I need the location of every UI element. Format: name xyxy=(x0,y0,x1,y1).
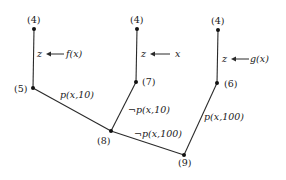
node-label-4b: (4) xyxy=(130,14,143,25)
node-label-8: (8) xyxy=(97,135,110,146)
edge-4-5 xyxy=(33,29,34,88)
subst-var-3: z xyxy=(221,53,228,64)
node-label-6: (6) xyxy=(224,78,237,89)
proof-tree-diagram: (4) (5) (4) (7) (4) (6) (8) (9) z f(x) z… xyxy=(0,0,286,180)
arrowhead-icon xyxy=(150,52,155,57)
node-label-7: (7) xyxy=(142,76,155,87)
node-4c xyxy=(216,28,220,32)
node-4b xyxy=(135,27,139,31)
subst-value-2: x xyxy=(175,48,181,59)
edge-4-7 xyxy=(136,29,137,82)
node-5 xyxy=(31,86,35,90)
edge-label-8-9: ¬p(x,100) xyxy=(134,128,182,139)
arrowhead-icon xyxy=(231,57,236,62)
node-6 xyxy=(215,81,219,85)
node-label-4c: (4) xyxy=(211,15,224,26)
node-label-4a: (4) xyxy=(27,14,40,25)
edge-label-7-8: ¬p(x,10) xyxy=(128,104,170,115)
node-label-5: (5) xyxy=(14,83,27,94)
arrowhead-icon xyxy=(46,52,51,57)
subst-value-3: g(x) xyxy=(250,53,269,64)
node-7 xyxy=(134,80,138,84)
diagram-canvas: (4) (5) (4) (7) (4) (6) (8) (9) z f(x) z… xyxy=(0,0,286,180)
node-label-9: (9) xyxy=(178,157,191,168)
node-8 xyxy=(109,129,113,133)
edge-label-6-9: p(x,100) xyxy=(204,111,244,122)
subst-var-1: z xyxy=(36,48,43,59)
edge-label-5-8: p(x,10) xyxy=(60,89,94,100)
subst-var-2: z xyxy=(140,48,147,59)
edge-4-6 xyxy=(217,30,218,83)
node-4a xyxy=(32,27,36,31)
subst-value-1: f(x) xyxy=(65,48,83,59)
